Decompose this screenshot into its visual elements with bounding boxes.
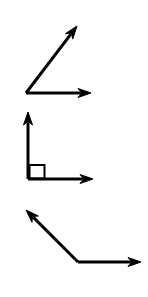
figure-canvas [0,0,148,297]
acute-ray-upper-shaft [26,34,71,93]
square-marker [30,165,45,179]
acute-angle [26,26,91,98]
angles-figure [0,0,148,297]
obtuse-angle [26,210,141,267]
obtuse-ray-upper-left-shaft [33,217,78,262]
right-angle [24,112,94,184]
